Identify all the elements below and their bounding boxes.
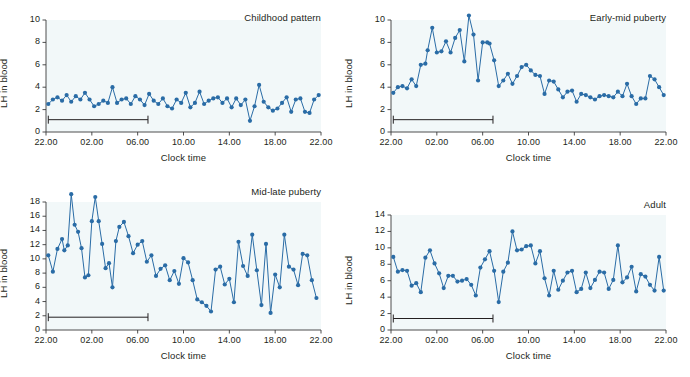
data-point xyxy=(506,72,510,76)
data-point xyxy=(296,283,300,287)
data-point xyxy=(97,102,101,106)
data-point xyxy=(303,110,307,114)
data-point xyxy=(556,288,560,292)
data-point xyxy=(273,272,277,276)
plot-background xyxy=(391,20,666,132)
data-point xyxy=(657,85,661,89)
data-point xyxy=(122,220,126,224)
chart-panel-2: 024681022.0002.0006.0010.0014.0018.0022.… xyxy=(0,0,690,377)
x-tick-label: 22.00 xyxy=(297,335,345,345)
data-point xyxy=(492,269,496,273)
data-point xyxy=(575,100,579,104)
data-point xyxy=(66,243,70,247)
data-point xyxy=(181,256,185,260)
chart-panel-4: 0246810121422.0002.0006.0010.0014.0018.0… xyxy=(0,0,690,377)
data-point xyxy=(423,256,427,260)
data-point xyxy=(87,97,91,101)
data-point xyxy=(110,85,114,89)
data-point xyxy=(83,91,87,95)
data-point xyxy=(100,242,104,246)
y-tick-label: 10 xyxy=(12,14,40,24)
data-point xyxy=(314,296,318,300)
data-point xyxy=(136,243,140,247)
data-point xyxy=(74,94,78,98)
data-point xyxy=(430,26,434,30)
data-point xyxy=(662,288,666,292)
data-point xyxy=(115,101,119,105)
data-point xyxy=(200,300,204,304)
y-axis-label: LH in blood xyxy=(343,255,354,304)
data-point xyxy=(533,261,537,265)
data-point xyxy=(414,84,418,88)
data-point xyxy=(298,96,302,100)
data-point xyxy=(106,101,110,105)
data-point xyxy=(92,104,96,108)
data-point xyxy=(391,91,395,95)
y-tick-label: 8 xyxy=(357,258,385,268)
data-point xyxy=(570,88,574,92)
data-point xyxy=(149,253,153,257)
data-point xyxy=(177,282,181,286)
data-point xyxy=(602,270,606,274)
data-point xyxy=(255,268,259,272)
data-point xyxy=(158,267,162,271)
data-point xyxy=(657,255,661,259)
data-point xyxy=(510,82,514,86)
data-point xyxy=(652,288,656,292)
data-point xyxy=(487,41,491,45)
data-point xyxy=(301,252,305,256)
data-point xyxy=(280,101,284,105)
data-point xyxy=(204,304,208,308)
data-point xyxy=(458,28,462,32)
y-tick-label: 0 xyxy=(12,126,40,136)
data-point xyxy=(630,94,634,98)
y-tick-label: 6 xyxy=(357,275,385,285)
data-point xyxy=(117,225,121,229)
data-point xyxy=(197,90,201,94)
data-point xyxy=(154,274,158,278)
data-point xyxy=(437,271,441,275)
data-point xyxy=(643,96,647,100)
data-point xyxy=(93,195,97,199)
data-point xyxy=(101,99,105,103)
data-point xyxy=(561,95,565,99)
data-point xyxy=(515,74,519,78)
y-tick-label: 6 xyxy=(12,59,40,69)
data-line xyxy=(393,231,663,302)
panel-title: Adult xyxy=(466,199,666,210)
axis-lines xyxy=(391,20,666,132)
data-point xyxy=(140,239,144,243)
data-point xyxy=(193,101,197,105)
y-axis-label: LH in blood xyxy=(0,249,9,298)
data-point xyxy=(287,265,291,269)
data-line xyxy=(48,194,316,313)
data-point xyxy=(639,96,643,100)
data-point xyxy=(285,95,289,99)
data-point xyxy=(410,77,414,81)
y-tick-label: 8 xyxy=(12,267,40,277)
data-point xyxy=(423,62,427,66)
data-point xyxy=(501,78,505,82)
x-tick-label: 06.00 xyxy=(459,335,507,345)
data-point xyxy=(483,257,487,261)
data-point xyxy=(257,83,261,87)
data-point xyxy=(414,281,418,285)
data-point xyxy=(252,104,256,108)
data-point xyxy=(225,96,229,100)
x-tick-label: 02.00 xyxy=(68,137,116,147)
x-tick-label: 14.00 xyxy=(550,137,598,147)
data-point xyxy=(588,286,592,290)
data-point xyxy=(620,94,624,98)
data-point xyxy=(634,102,638,106)
data-point xyxy=(76,230,80,234)
sleep-label: Sleep xyxy=(73,106,123,116)
chart-panel-3: 02468101214161822.0002.0006.0010.0014.00… xyxy=(0,0,690,377)
data-point xyxy=(275,106,279,110)
data-point xyxy=(446,274,450,278)
data-point xyxy=(607,287,611,291)
sleep-period-bar xyxy=(393,315,493,323)
data-point xyxy=(465,277,469,281)
panel-title: Early-mid puberty xyxy=(466,12,666,23)
y-tick-label: 8 xyxy=(12,36,40,46)
data-point xyxy=(145,260,149,264)
